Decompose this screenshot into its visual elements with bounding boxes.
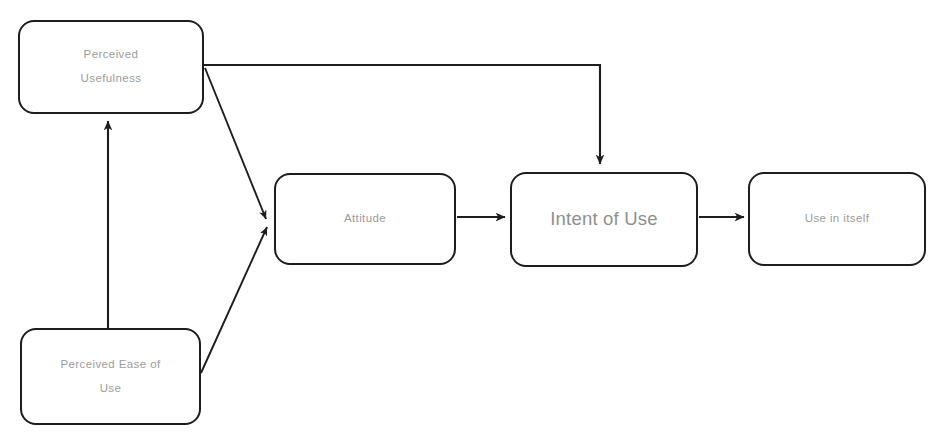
edge-pu-to-attitude: [205, 68, 266, 219]
node-label-use-in-itself: Use in itself: [805, 207, 870, 231]
diagram-canvas: Perceived Usefulness Perceived Ease of U…: [0, 0, 941, 435]
node-perceived-usefulness[interactable]: Perceived Usefulness: [18, 20, 204, 114]
node-use-in-itself[interactable]: Use in itself: [748, 172, 926, 266]
node-attitude[interactable]: Attitude: [274, 173, 456, 265]
node-perceived-ease-of-use[interactable]: Perceived Ease of Use: [20, 328, 201, 425]
node-label-intent-of-use: Intent of Use: [550, 207, 658, 231]
edge-pu-to-intent: [204, 65, 600, 164]
node-label-perceived-usefulness: Perceived Usefulness: [81, 43, 142, 90]
top-cropped-caption: [60, 0, 320, 6]
edge-peou-to-attitude: [201, 227, 267, 373]
node-intent-of-use[interactable]: Intent of Use: [510, 172, 698, 267]
node-label-attitude: Attitude: [344, 207, 386, 231]
node-label-perceived-ease-of-use: Perceived Ease of Use: [60, 353, 160, 400]
